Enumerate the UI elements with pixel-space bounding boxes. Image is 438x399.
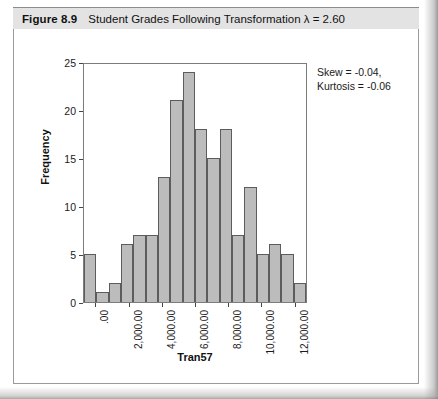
histogram-bar [294,283,306,302]
skew-value: Skew = -0.04, [317,65,391,79]
histogram-bar [109,283,121,302]
figure-number: Figure 8.9 [22,13,77,25]
histogram-bar [121,244,133,302]
histogram-bar [133,235,145,302]
figure-title-bar: Figure 8.9 Student Grades Following Tran… [13,7,419,29]
histogram-bar [232,235,244,302]
y-axis-tick: 10 [64,201,83,213]
histogram-bar [183,72,195,302]
histogram-bar [257,254,269,302]
figure-frame: 0510152025 Frequency .002,000.004,000.00… [13,29,419,384]
page-edge-shadow-right [424,0,438,399]
histogram-bar [195,129,207,302]
x-axis-tick-label: .00 [100,310,110,324]
y-axis-tick: 5 [70,249,83,261]
y-axis-tick-label: 15 [64,154,76,165]
x-axis-tick-label: 8,000.00 [233,310,243,349]
histogram-bar [158,177,170,302]
x-axis-tick-label: 12,000.00 [300,310,310,355]
x-axis-tick-mark [195,303,196,307]
x-axis-tick-label: 4,000.00 [167,310,177,349]
x-axis-tick-label: 10,000.00 [266,310,276,355]
histogram-bar [84,254,96,302]
x-axis-tick-mark [95,303,96,307]
x-axis-title: Tran57 [83,351,307,363]
x-axis-tick-mark [295,303,296,307]
scanned-page: Figure 8.9 Student Grades Following Tran… [0,0,438,399]
y-axis-tick-label: 20 [64,106,76,117]
y-axis-tick-label: 10 [64,202,76,213]
x-axis-tick-mark [261,303,262,307]
kurtosis-value: Kurtosis = -0.06 [317,79,391,93]
y-axis-title: Frequency [39,102,51,212]
histogram-bar [207,158,219,302]
histogram-bar [220,129,232,302]
y-axis-tick-label: 0 [70,298,76,309]
histogram-bar [244,187,256,302]
x-axis-tick-mark [228,303,229,307]
x-axis-tick-mark [129,303,130,307]
histogram-bar [170,100,182,302]
histogram-chart: 0510152025 Frequency .002,000.004,000.00… [14,29,420,384]
histogram-bars [84,64,306,302]
y-axis-tick-label: 25 [64,58,76,69]
y-axis-tick: 15 [64,153,83,165]
y-axis-tick: 20 [64,105,83,117]
stats-annotation: Skew = -0.04, Kurtosis = -0.06 [317,65,391,93]
histogram-bar [96,292,108,302]
histogram-bar [146,235,158,302]
histogram-bar [281,254,293,302]
plot-area [83,63,307,303]
histogram-bar [269,244,281,302]
y-axis-tick: 25 [64,57,83,69]
figure-caption: Student Grades Following Transformation … [88,13,345,25]
y-axis-tick-label: 5 [70,250,76,261]
x-axis-tick-label: 6,000.00 [200,310,210,349]
x-axis-tick-mark [162,303,163,307]
x-axis-tick-label: 2,000.00 [134,310,144,349]
page-edge-shadow-bottom [0,387,438,399]
y-axis-tick: 0 [70,297,83,309]
